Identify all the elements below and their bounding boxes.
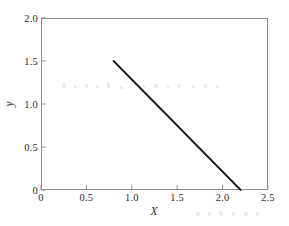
y-tick-label-2: 1.0 bbox=[24, 99, 38, 110]
chart-figure: 0 0.5 1.0 1.5 2.0 2.5 0 0.5 1.0 1.5 2.0 … bbox=[0, 0, 289, 226]
x-axis-ticks bbox=[41, 185, 268, 190]
y-axis-title: y bbox=[3, 101, 15, 106]
x-tick-label-0: 0 bbox=[38, 192, 43, 203]
y-tick-label-3: 1.5 bbox=[24, 56, 38, 67]
x-axis-title: X bbox=[150, 205, 157, 217]
data-line-series-0 bbox=[114, 61, 241, 190]
y-tick-label-0: 0 bbox=[33, 185, 38, 196]
y-axis-ticks bbox=[41, 18, 46, 190]
x-tick-label-2: 1.0 bbox=[125, 192, 139, 203]
x-tick-label-3: 1.5 bbox=[170, 192, 184, 203]
y-tick-label-4: 2.0 bbox=[24, 13, 38, 24]
x-tick-label-1: 0.5 bbox=[80, 192, 94, 203]
y-tick-label-1: 0.5 bbox=[24, 142, 38, 153]
x-tick-label-4: 2.0 bbox=[216, 192, 230, 203]
x-tick-label-5: 2.5 bbox=[261, 192, 275, 203]
